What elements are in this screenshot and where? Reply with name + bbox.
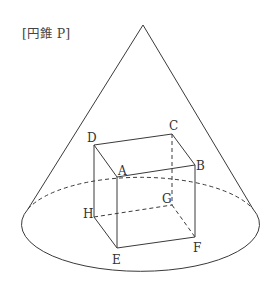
edge-EF [117, 237, 195, 248]
cone-right-edge [143, 25, 253, 209]
cone-left-edge [28, 25, 143, 209]
vertex-label-F: F [193, 241, 201, 255]
edge-GF [172, 205, 195, 237]
vertex-label-E: E [112, 253, 121, 267]
edge-DC [94, 134, 172, 145]
vertex-label-G: G [162, 192, 172, 206]
vertex-label-C: C [169, 119, 178, 133]
edge-DA [94, 145, 117, 177]
vertex-label-D: D [87, 131, 97, 145]
cone-base-back-arc [28, 177, 253, 209]
figure-title: [円錐 P] [22, 26, 70, 41]
vertex-label-B: B [196, 159, 205, 173]
edge-CB [172, 134, 195, 165]
edge-AB [117, 165, 195, 177]
edge-HG [94, 205, 172, 217]
edge-HE [94, 217, 117, 248]
vertex-label-A: A [117, 164, 127, 178]
vertex-label-H: H [83, 207, 93, 221]
cone-base-front-arc [22, 209, 260, 271]
cone-diagram: [円錐 P] D C B A H G E F [0, 0, 276, 292]
